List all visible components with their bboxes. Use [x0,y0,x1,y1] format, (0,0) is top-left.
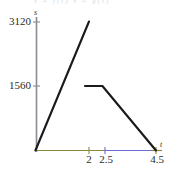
series-plateau-descending-line [85,86,156,151]
plot-area [0,0,169,171]
graph-figure: s = f(t) s = g(t) s t 3120 1560 2 2.5 4.… [0,0,169,171]
series-rising-line [35,22,89,151]
